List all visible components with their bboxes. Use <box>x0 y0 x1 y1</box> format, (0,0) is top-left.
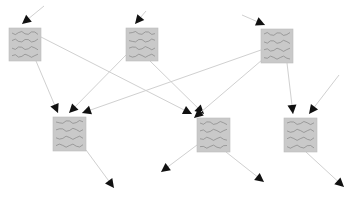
edge <box>306 152 344 187</box>
edge <box>226 152 264 182</box>
arrowhead-icon <box>82 106 92 114</box>
edge <box>287 63 296 114</box>
diagram-node <box>126 28 158 61</box>
arrowhead-icon <box>135 14 144 24</box>
diagram-node <box>197 118 230 152</box>
edge <box>161 145 197 172</box>
arrowhead-icon <box>161 163 171 172</box>
diagram-node <box>53 117 86 151</box>
diagram-node <box>261 29 293 63</box>
network-diagram <box>0 0 360 205</box>
edge <box>135 11 146 24</box>
edge <box>41 37 192 114</box>
arrowhead-icon <box>309 104 318 114</box>
arrowhead-icon <box>105 178 114 188</box>
arrowhead-icon <box>254 173 264 182</box>
arrowhead-icon <box>22 15 32 24</box>
edge <box>36 61 59 113</box>
edge <box>242 15 265 26</box>
edge <box>309 75 339 114</box>
arrowhead-icon <box>287 105 296 114</box>
edge <box>194 60 262 118</box>
edge <box>69 55 126 113</box>
diagram-node <box>9 28 41 61</box>
diagram-node <box>284 118 317 152</box>
edge <box>22 6 44 24</box>
edge <box>86 150 114 188</box>
